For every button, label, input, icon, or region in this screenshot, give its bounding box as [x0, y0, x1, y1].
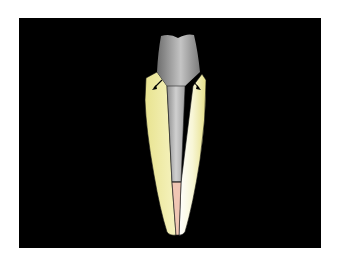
tooth-diagram	[0, 0, 338, 266]
